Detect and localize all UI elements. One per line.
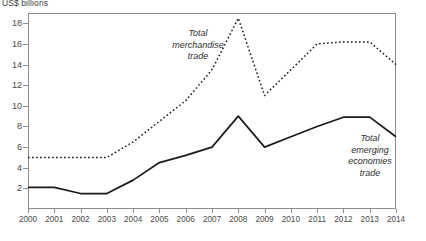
x-axis-tick-label: 2011 — [308, 215, 326, 224]
annotation-total-emerging-economies-trade: Total emerging economies trade — [330, 133, 410, 179]
y-axis-tick-label: 14 — [0, 60, 22, 70]
x-axis-tick-mark — [159, 209, 160, 213]
x-axis-tick-mark — [370, 209, 371, 213]
x-axis-tick-label: 2005 — [150, 215, 168, 224]
x-axis-tick-mark — [186, 209, 187, 213]
y-axis-tick-label: 12 — [0, 80, 22, 90]
x-axis-tick-mark — [81, 209, 82, 213]
x-axis-tick-label: 2009 — [255, 215, 273, 224]
y-axis-tick-label: 16 — [0, 39, 22, 49]
y-axis-tick-label: 6 — [0, 142, 22, 152]
y-axis-tick-label: 8 — [0, 121, 22, 131]
x-axis-tick-label: 2012 — [334, 215, 352, 224]
annotation-line: Total — [152, 28, 244, 40]
annotation-line: Total — [330, 133, 410, 145]
x-axis-tick-label: 2010 — [282, 215, 300, 224]
x-axis-tick-mark — [396, 209, 397, 213]
annotation-total-merchandise-trade: Total merchandise trade — [152, 28, 244, 63]
x-axis-tick-mark — [28, 209, 29, 213]
x-axis-tick-mark — [107, 209, 108, 213]
y-axis-tick-label: 10 — [0, 101, 22, 111]
x-axis-tick-label: 2000 — [19, 215, 37, 224]
x-axis-tick-label: 2006 — [177, 215, 195, 224]
x-axis-tick-label: 2013 — [361, 215, 379, 224]
y-axis-unit-label: US$ billions — [2, 0, 48, 8]
annotation-line: trade — [330, 168, 410, 180]
x-axis-tick-mark — [238, 209, 239, 213]
annotation-line: economies — [330, 156, 410, 168]
y-axis-tick-label: 4 — [0, 163, 22, 173]
x-axis-tick-mark — [212, 209, 213, 213]
y-axis-tick-label: 2 — [0, 183, 22, 193]
x-axis-tick-label: 2003 — [98, 215, 116, 224]
x-axis-tick-mark — [265, 209, 266, 213]
x-axis-tick-label: 2002 — [71, 215, 89, 224]
chart-container: US$ billions 24681012141618 200020012002… — [0, 0, 426, 241]
x-axis-tick-mark — [343, 209, 344, 213]
x-axis-tick-mark — [133, 209, 134, 213]
x-axis-tick-label: 2007 — [203, 215, 221, 224]
x-axis-tick-mark — [291, 209, 292, 213]
x-axis-tick-mark — [317, 209, 318, 213]
x-axis-tick-label: 2014 — [387, 215, 405, 224]
annotation-line: merchandise — [152, 40, 244, 52]
annotation-line: trade — [152, 51, 244, 63]
x-axis-tick-label: 2008 — [229, 215, 247, 224]
x-axis-tick-mark — [54, 209, 55, 213]
x-axis-tick-label: 2004 — [124, 215, 142, 224]
y-axis-tick-label: 18 — [0, 18, 22, 28]
annotation-line: emerging — [330, 145, 410, 157]
x-axis-tick-label: 2001 — [45, 215, 63, 224]
